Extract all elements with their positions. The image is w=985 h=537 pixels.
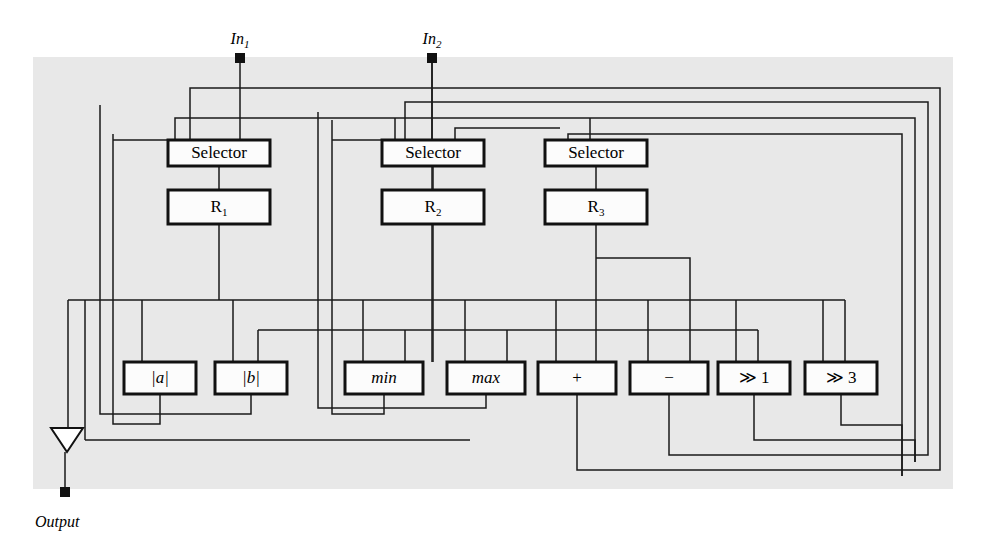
selector-1-label: Selector [191,143,247,162]
function-unit-shift-right-1[interactable]: ≫ 1 [718,362,790,394]
input-1-label: In1 [230,30,250,50]
function-unit-shift-right-3[interactable]: ≫ 3 [805,362,877,394]
function-unit-abs-a-label: |a| [151,368,169,387]
input-2-label: In2 [422,30,442,50]
input-1-pad[interactable] [235,53,245,63]
register-2[interactable]: R2 [382,190,484,224]
function-unit-max[interactable]: max [447,362,525,394]
output-pad[interactable] [60,487,70,497]
output-label: Output [35,513,80,531]
function-unit-add[interactable]: + [538,362,616,394]
figure-root: Selector Selector Selector R1 R2 R [0,0,985,537]
function-unit-max-label: max [472,368,501,387]
function-unit-abs-b[interactable]: |b| [215,362,287,394]
selector-3-label: Selector [568,143,624,162]
function-unit-sub[interactable]: − [630,362,708,394]
selector-1[interactable]: Selector [168,140,270,166]
input-2-pad[interactable] [427,53,437,63]
register-3[interactable]: R3 [545,190,647,224]
selector-2-label: Selector [405,143,461,162]
selector-2[interactable]: Selector [382,140,484,166]
function-unit-shift-right-3-label: ≫ 3 [826,368,857,387]
datapath-diagram: Selector Selector Selector R1 R2 R [0,0,985,537]
register-1[interactable]: R1 [168,190,270,224]
diagram-panel [33,57,953,489]
function-unit-shift-right-1-label: ≫ 1 [739,368,770,387]
function-unit-add-label: + [572,368,582,387]
function-unit-min-label: min [371,368,397,387]
function-unit-group: |a| |b| min max + − ≫ 1 ≫ 3 [124,362,877,394]
function-unit-sub-label: − [664,368,674,387]
function-unit-abs-b-label: |b| [242,368,260,387]
selector-3[interactable]: Selector [545,140,647,166]
selector-group: Selector Selector Selector [168,140,647,166]
function-unit-min[interactable]: min [345,362,423,394]
function-unit-abs-a[interactable]: |a| [124,362,196,394]
register-group: R1 R2 R3 [168,190,647,224]
